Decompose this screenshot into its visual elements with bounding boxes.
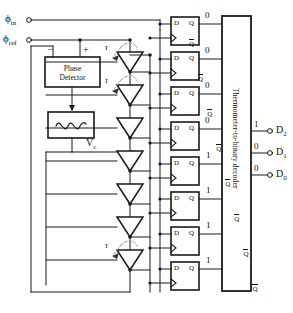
ff4-d-pin: D (174, 124, 179, 132)
delay-stage-5 (117, 184, 143, 206)
flipflop-8 (148, 262, 222, 290)
vc-label: Vc (86, 138, 96, 151)
phi-in-label: ϕin (5, 13, 16, 27)
output-d2-label: D2 (276, 125, 287, 138)
ff4-qbar-pin: Q (216, 145, 221, 153)
ff3-q-pin: Q (189, 89, 194, 97)
output-d2-value: 1 (254, 120, 259, 129)
thermometer-bit-3: 0 (205, 81, 210, 90)
phi-ref-label: ϕref (3, 33, 17, 47)
ff6-q-pin: Q (189, 194, 194, 202)
ff8-qbar-pin: Q (252, 285, 257, 293)
phi-in-terminal (27, 18, 160, 30)
pd-plus-sign: + (83, 44, 89, 55)
ff6-qbar-pin: Q (234, 215, 239, 223)
output-d1-label: D1 (276, 147, 287, 160)
vc-taps (46, 62, 117, 260)
ff5-q-pin: Q (189, 159, 194, 167)
thermometer-bit-1: 0 (205, 11, 210, 20)
ff2-q-pin: Q (189, 54, 194, 62)
thermometer-bit-4: 0 (205, 116, 210, 125)
flipflop-5 (148, 157, 222, 185)
output-d0 (251, 173, 272, 178)
flipflop-6 (148, 192, 222, 220)
ff6-d-pin: D (174, 194, 179, 202)
thermometer-bit-7: 1 (206, 221, 211, 230)
decoder-label: Thermometer-to-binary decoder (231, 88, 240, 189)
ff1-qbar-pin: Q (189, 40, 194, 48)
output-d1-value: 0 (254, 142, 259, 151)
phase-detector-label: Phase Detector (45, 64, 100, 82)
ff1-q-pin: Q (189, 19, 194, 27)
ff2-d-pin: D (174, 54, 179, 62)
schematic-svg (0, 0, 293, 313)
flipflop-1 (148, 17, 222, 45)
delay-stage-2 (112, 76, 143, 107)
thermometer-bit-2: 0 (205, 46, 210, 55)
flipflop-4 (148, 122, 222, 150)
flipflop-7 (148, 227, 222, 255)
ff4-q-pin: Q (189, 124, 194, 132)
pd-minus-sign: − (48, 44, 54, 55)
ff7-qbar-pin: Q (243, 250, 248, 258)
output-d2 (251, 129, 272, 134)
output-d0-label: D0 (276, 169, 287, 182)
output-d1 (251, 151, 272, 156)
output-d0-value: 0 (254, 164, 259, 173)
delay-stage-3 (117, 118, 143, 140)
thermometer-bit-8: 1 (206, 256, 211, 265)
loop-filter-box (48, 112, 94, 138)
flipflop-2 (148, 52, 222, 80)
thermometer-bit-5: 1 (206, 151, 211, 160)
thermometer-bit-6: 1 (206, 186, 211, 195)
delay-stage-1 (112, 43, 143, 74)
delay-stage-7 (112, 241, 143, 272)
circuit-diagram-canvas: ϕin ϕref Phase Detector − + Vc τ τ τ D Q… (0, 0, 293, 313)
delay-stage-4 (117, 151, 143, 173)
ff7-q-pin: Q (189, 229, 194, 237)
ff1-d-pin: D (174, 19, 179, 27)
ff3-d-pin: D (174, 89, 179, 97)
tau-label-stage-7: τ (105, 242, 108, 250)
ff2-qbar-pin: Q (198, 75, 203, 83)
ff7-d-pin: D (174, 229, 179, 237)
tau-label-stage-1: τ (105, 44, 108, 52)
ff5-qbar-pin: Q (225, 180, 230, 188)
tau-label-stage-2: τ (105, 77, 108, 85)
ff5-d-pin: D (174, 159, 179, 167)
delay-stage-6 (117, 217, 143, 239)
ff8-d-pin: D (174, 264, 179, 272)
ff8-q-pin: Q (189, 264, 194, 272)
